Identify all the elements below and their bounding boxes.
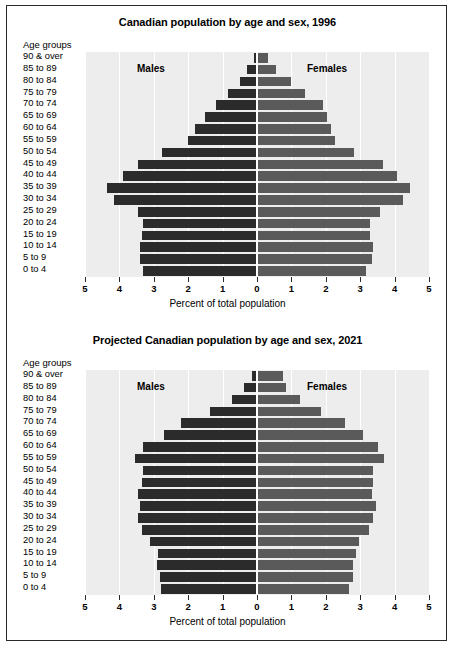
axis-tick	[395, 277, 396, 282]
age-group-label: 65 to 69	[23, 110, 85, 122]
bar-male	[188, 136, 257, 146]
age-groups-header-2021: Age groups	[23, 357, 72, 368]
age-group-label: 60 to 64	[23, 122, 85, 134]
axis-tick	[119, 277, 120, 282]
bar-female	[258, 195, 403, 205]
axis-tick	[360, 277, 361, 282]
bar-male	[140, 501, 257, 511]
bar-male	[143, 442, 257, 452]
bar-female	[258, 584, 349, 594]
age-group-label: 35 to 39	[23, 181, 85, 193]
bar-male	[240, 77, 257, 87]
bar-female	[258, 371, 283, 381]
age-group-label: 0 to 4	[23, 264, 85, 276]
axis-tick-label: 4	[117, 283, 122, 294]
axis-tick	[429, 595, 430, 600]
age-group-label: 20 to 24	[23, 535, 85, 547]
series-label-males-2021: Males	[137, 381, 165, 392]
bar-female	[258, 207, 380, 217]
age-group-label: 35 to 39	[23, 499, 85, 511]
bar-male	[210, 407, 257, 417]
bar-female	[258, 549, 356, 559]
bar-female	[258, 442, 378, 452]
bar-female	[258, 560, 353, 570]
age-group-label: 90 & over	[23, 369, 85, 381]
bar-female	[258, 53, 268, 63]
age-group-label: 15 to 19	[23, 547, 85, 559]
chart-title-1996: Canadian population by age and sex, 1996	[7, 16, 448, 28]
axis-tick	[291, 595, 292, 600]
bar-male	[164, 430, 257, 440]
bar-female	[258, 148, 354, 158]
bar-male	[123, 171, 257, 181]
bar-male	[162, 148, 257, 158]
axis-tick	[188, 277, 189, 282]
bar-male	[143, 219, 257, 229]
chart-title-2021: Projected Canadian population by age and…	[7, 334, 448, 346]
axis-tick-label: 5	[82, 601, 87, 612]
bar-female	[258, 430, 363, 440]
bar-female	[258, 65, 276, 75]
age-group-label: 85 to 89	[23, 381, 85, 393]
age-group-labels-1996: 90 & over85 to 8980 to 8475 to 7970 to 7…	[23, 52, 85, 277]
gridline	[429, 52, 430, 277]
axis-tick-label: 4	[392, 283, 397, 294]
age-group-label: 45 to 49	[23, 158, 85, 170]
bar-female	[258, 242, 373, 252]
bar-female	[258, 77, 291, 87]
axis-tick-label: 2	[186, 601, 191, 612]
axis-tick	[395, 595, 396, 600]
bar-male	[107, 183, 257, 193]
zero-axis-line	[256, 52, 258, 277]
bar-female	[258, 478, 373, 488]
bar-male	[216, 100, 257, 110]
age-group-label: 0 to 4	[23, 582, 85, 594]
age-group-label: 75 to 79	[23, 87, 85, 99]
age-group-label: 40 to 44	[23, 169, 85, 181]
axis-tick	[85, 595, 86, 600]
bar-female	[258, 183, 410, 193]
bar-male	[138, 489, 257, 499]
age-group-label: 5 to 9	[23, 570, 85, 582]
age-group-label: 90 & over	[23, 51, 85, 63]
bar-male	[138, 160, 257, 170]
age-group-label: 10 to 14	[23, 558, 85, 570]
bar-female	[258, 489, 372, 499]
axis-tick	[154, 595, 155, 600]
axis-tick	[360, 595, 361, 600]
bar-female	[258, 407, 321, 417]
bar-female	[258, 124, 331, 134]
bar-male	[142, 525, 257, 535]
bar-male	[195, 124, 257, 134]
axis-tick	[326, 595, 327, 600]
age-group-label: 25 to 29	[23, 205, 85, 217]
gridline	[429, 370, 430, 595]
axis-tick-label: 0	[254, 283, 259, 294]
axis-tick	[119, 595, 120, 600]
axis-tick-label: 5	[426, 601, 431, 612]
axis-tick-label: 3	[151, 283, 156, 294]
bar-male	[138, 207, 257, 217]
bar-female	[258, 466, 373, 476]
axis-tick-label: 2	[323, 283, 328, 294]
bar-male	[138, 513, 257, 523]
age-groups-header-1996: Age groups	[23, 39, 72, 50]
axis-tick-label: 1	[220, 283, 225, 294]
bar-female	[258, 383, 286, 393]
bar-female	[258, 160, 383, 170]
age-group-label: 55 to 59	[23, 452, 85, 464]
bar-male	[143, 466, 257, 476]
bar-male	[140, 254, 257, 264]
axis-tick-label: 5	[426, 283, 431, 294]
series-label-females-2021: Females	[307, 381, 347, 392]
bar-male	[228, 89, 257, 99]
age-group-label: 60 to 64	[23, 440, 85, 452]
bar-female	[258, 231, 370, 241]
axis-tick-label: 5	[82, 283, 87, 294]
age-group-labels-2021: 90 & over85 to 8980 to 8475 to 7970 to 7…	[23, 370, 85, 595]
bar-male	[143, 266, 257, 276]
age-group-label: 20 to 24	[23, 217, 85, 229]
bar-male	[157, 560, 257, 570]
plot-area-1996	[85, 52, 429, 277]
x-axis-caption-1996: Percent of total population	[7, 298, 448, 309]
